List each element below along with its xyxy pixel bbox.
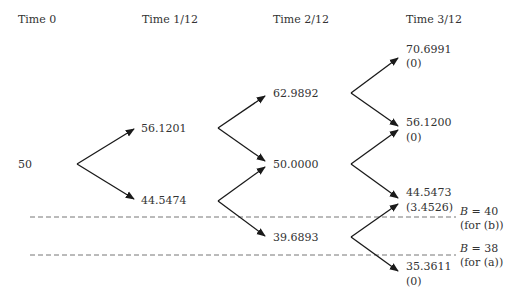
- barrier-note-38: (for (a)): [460, 256, 503, 269]
- edge-t1d-up: [218, 167, 265, 201]
- node-t2-mid-price: 50.0000: [273, 158, 319, 171]
- node-t3-dd-price: 35.3611: [406, 260, 452, 273]
- edge-t1u-down: [218, 128, 265, 161]
- node-t3-u-payoff: (0): [406, 131, 422, 144]
- edge-t0-up: [77, 129, 134, 164]
- edge-t2d-up: [351, 204, 398, 237]
- barrier-eq: = 40: [468, 205, 498, 218]
- edge-t2m-down: [351, 164, 398, 198]
- node-t3-uu-payoff: (0): [406, 57, 422, 70]
- barrier-eq: = 38: [468, 242, 498, 255]
- edge-t0-down: [77, 164, 134, 199]
- edge-t2u-up: [351, 58, 398, 93]
- barrier-label-38: B = 38: [460, 242, 498, 255]
- node-t3-dd-payoff: (0): [406, 275, 422, 288]
- node-t3-d-price: 44.5473: [406, 186, 452, 199]
- barrier-lines: [30, 217, 456, 255]
- barrier-note-40: (for (b)): [460, 219, 504, 232]
- node-t1-up-price: 56.1201: [141, 122, 187, 135]
- node-t2-down-price: 39.6893: [273, 231, 319, 244]
- edge-t2m-up: [351, 130, 398, 164]
- node-t2-up-price: 62.9892: [273, 87, 319, 100]
- edge-t2u-down: [351, 93, 398, 126]
- node-t3-u-price: 56.1200: [406, 116, 452, 129]
- edge-t2d-down: [351, 237, 398, 271]
- node-t3-uu-price: 70.6991: [406, 43, 452, 56]
- barrier-var: B: [460, 242, 468, 255]
- edge-t1d-down: [218, 201, 265, 236]
- barrier-var: B: [460, 205, 468, 218]
- node-t1-down-price: 44.5474: [141, 194, 187, 207]
- edge-t1u-up: [218, 96, 265, 128]
- node-t3-d-payoff: (3.4526): [406, 201, 453, 214]
- node-t0-price: 50: [18, 158, 32, 171]
- barrier-label-40: B = 40: [460, 205, 498, 218]
